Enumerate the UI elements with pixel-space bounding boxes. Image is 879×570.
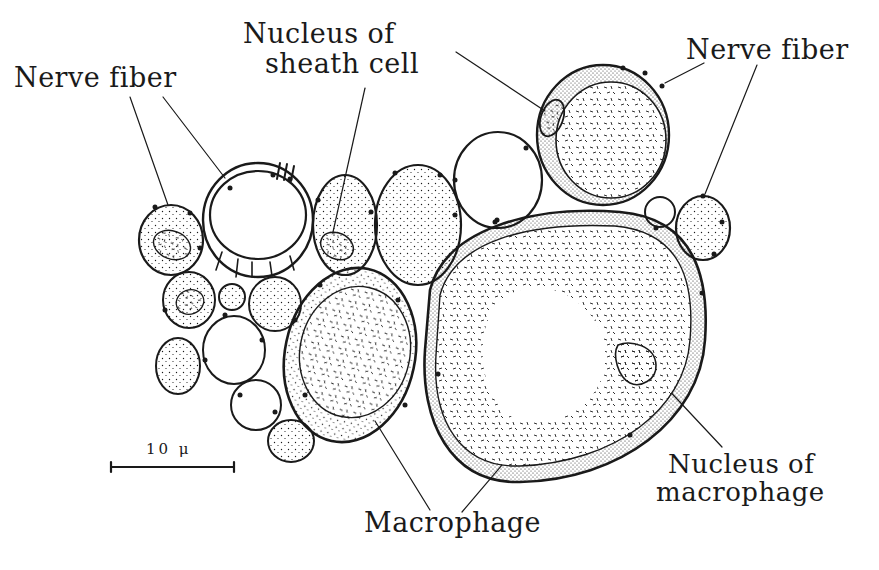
label-nucleus-sheath-line2: sheath cell bbox=[265, 50, 419, 77]
histology-figure: Nerve fiber Nucleus of sheath cell Nerve… bbox=[0, 0, 879, 570]
label-nucleus-macrophage-line2: macrophage bbox=[656, 480, 825, 505]
nerve-fiber-right-cell bbox=[535, 65, 669, 205]
myelinated-fiber bbox=[203, 163, 313, 277]
large-macrophage-cell bbox=[424, 211, 705, 482]
sheath-cell-fiber bbox=[313, 175, 377, 275]
nerve-fiber-left-cell bbox=[139, 205, 203, 275]
scale-bar-label: 10 μ bbox=[146, 440, 192, 458]
label-nucleus-sheath-line1: Nucleus of bbox=[243, 20, 395, 47]
fiber-clear-top bbox=[454, 132, 542, 228]
label-nerve-fiber-left: Nerve fiber bbox=[14, 64, 177, 91]
scale-bar-line bbox=[111, 462, 234, 472]
label-nerve-fiber-right: Nerve fiber bbox=[686, 36, 849, 63]
label-nucleus-macrophage-line1: Nucleus of bbox=[668, 452, 814, 477]
label-macrophage: Macrophage bbox=[364, 509, 541, 536]
